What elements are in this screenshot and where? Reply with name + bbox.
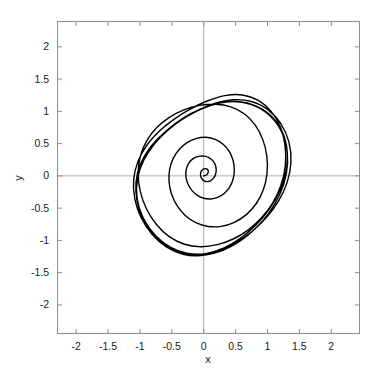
x-tick-label: -1.5 xyxy=(99,340,117,352)
x-tick-label: -1 xyxy=(135,340,144,352)
x-tick-label: 0.5 xyxy=(228,340,243,352)
x-tick-label: 1 xyxy=(265,340,271,352)
x-tick-label: -2 xyxy=(71,340,80,352)
x-tick-label: 2 xyxy=(328,340,334,352)
y-tick-label: -0.5 xyxy=(31,202,49,214)
y-tick-label: 1.5 xyxy=(34,73,49,85)
y-tick-label: 0.5 xyxy=(34,137,49,149)
x-tick-label: 0 xyxy=(201,340,207,352)
y-tick-label: -2 xyxy=(40,298,49,310)
x-axis-tick-labels: -2-1.5-1-0.500.511.52 xyxy=(71,340,334,352)
y-tick-label: 0 xyxy=(43,169,49,181)
y-tick-label: 2 xyxy=(43,40,49,52)
x-tick-label: 1.5 xyxy=(292,340,307,352)
y-axis-title: y xyxy=(12,175,24,181)
y-tick-label: -1.5 xyxy=(31,266,49,278)
x-tick-label: -0.5 xyxy=(163,340,181,352)
x-axis-title: x xyxy=(205,353,211,365)
phase-portrait-figure: -2-1.5-1-0.500.511.52 21.510.50-0.5-1-1.… xyxy=(0,0,385,390)
y-tick-label: 1 xyxy=(43,105,49,117)
plot-canvas: -2-1.5-1-0.500.511.52 21.510.50-0.5-1-1.… xyxy=(0,0,385,390)
y-tick-label: -1 xyxy=(40,234,49,246)
